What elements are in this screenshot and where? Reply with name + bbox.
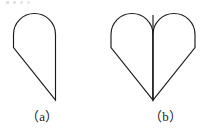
figure-label-a: （a） (26, 110, 59, 123)
shape-a-outline (14, 14, 56, 101)
figure-page: （a） （b） (0, 0, 210, 131)
shape-a-group (14, 14, 56, 101)
shape-b-left-half-outline (111, 14, 153, 101)
figure-label-b: （b） (149, 110, 182, 123)
shape-b-group (111, 14, 195, 101)
shape-b-right-half-outline (153, 14, 195, 100)
